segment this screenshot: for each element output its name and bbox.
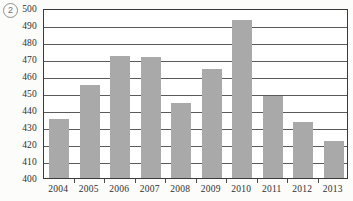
x-axis-tick (318, 179, 319, 183)
y-axis: 400410420430440450460470480490500 (0, 9, 41, 179)
bar-2007 (141, 57, 161, 178)
bar-chart-figure: 2 400410420430440450460470480490500 2004… (0, 0, 353, 201)
plot-area (43, 9, 348, 179)
x-axis-tick (196, 179, 197, 183)
y-tick-label: 400 (22, 174, 37, 184)
bar-2011 (263, 96, 283, 178)
y-tick-label: 430 (22, 123, 37, 133)
y-tick-label: 500 (22, 4, 37, 14)
y-tick-label: 490 (22, 21, 37, 31)
y-tick-label: 470 (22, 55, 37, 65)
x-tick-label: 2004 (48, 184, 68, 194)
x-axis-tick (135, 179, 136, 183)
y-tick-label: 410 (22, 157, 37, 167)
bar-2009 (202, 69, 222, 178)
bar-slot (258, 10, 289, 178)
x-axis-tick (257, 179, 258, 183)
x-axis-tick (165, 179, 166, 183)
bar-slot (44, 10, 75, 178)
bar-2005 (80, 85, 100, 179)
bar-slot (75, 10, 106, 178)
bar-2008 (171, 103, 191, 178)
y-tick-label: 440 (22, 106, 37, 116)
x-axis: 2004200520062007200820092010201120122013 (43, 184, 348, 198)
bar-2012 (293, 122, 313, 178)
x-tick-label: 2005 (79, 184, 99, 194)
x-tick-label: 2012 (292, 184, 312, 194)
y-tick-label: 480 (22, 38, 37, 48)
x-tick-label: 2011 (262, 184, 281, 194)
x-tick-label: 2010 (231, 184, 251, 194)
x-tick-label: 2013 (323, 184, 343, 194)
bar-2013 (324, 141, 344, 178)
x-tick-label: 2007 (140, 184, 160, 194)
x-axis-tick (74, 179, 75, 183)
bar-slot (227, 10, 258, 178)
bar-slot (136, 10, 167, 178)
bar-slot (319, 10, 350, 178)
y-tick-label: 420 (22, 140, 37, 150)
x-tick-label: 2008 (170, 184, 190, 194)
bar-slot (288, 10, 319, 178)
x-axis-tick (104, 179, 105, 183)
bar-slot (105, 10, 136, 178)
x-axis-tick (287, 179, 288, 183)
bar-2006 (110, 56, 130, 178)
x-axis-tick (226, 179, 227, 183)
bar-slot (197, 10, 228, 178)
bar-2004 (49, 119, 69, 179)
bar-slot (166, 10, 197, 178)
bar-2010 (232, 20, 252, 178)
bar-series (44, 10, 347, 178)
x-tick-label: 2009 (201, 184, 221, 194)
x-tick-label: 2006 (109, 184, 129, 194)
y-tick-label: 460 (22, 72, 37, 82)
y-tick-label: 450 (22, 89, 37, 99)
